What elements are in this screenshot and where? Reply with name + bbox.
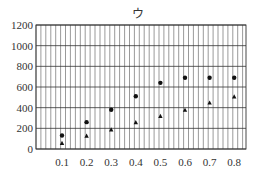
- grid: [36, 25, 246, 149]
- x-tick-label: 0.5: [154, 156, 168, 168]
- x-axis-ticks: 0.10.20.30.40.50.60.70.8: [55, 156, 241, 168]
- circle-marker: [183, 76, 187, 80]
- y-tick-label: 200: [17, 122, 34, 134]
- y-tick-label: 600: [17, 81, 34, 93]
- x-tick-label: 0.6: [178, 156, 192, 168]
- data-points: [60, 76, 237, 145]
- x-tick-label: 0.8: [227, 156, 241, 168]
- circle-marker: [109, 108, 113, 112]
- circle-marker: [60, 133, 64, 137]
- circle-marker: [84, 120, 88, 124]
- circle-marker: [158, 81, 162, 85]
- scatter-chart: ウ 020040060080010001200 0.10.20.30.40.50…: [0, 0, 254, 177]
- x-tick-label: 0.7: [203, 156, 217, 168]
- x-tick-label: 0.1: [55, 156, 69, 168]
- circle-marker: [207, 76, 211, 80]
- x-tick-label: 0.2: [80, 156, 94, 168]
- y-tick-label: 0: [28, 143, 34, 155]
- chart-title: ウ: [132, 7, 144, 21]
- y-tick-label: 1000: [11, 40, 34, 52]
- circle-marker: [134, 94, 138, 98]
- y-tick-label: 1200: [11, 19, 34, 31]
- circle-marker: [232, 76, 236, 80]
- y-tick-label: 800: [17, 60, 34, 72]
- y-tick-label: 400: [17, 102, 34, 114]
- y-axis-ticks: 020040060080010001200: [11, 19, 34, 155]
- x-tick-label: 0.4: [129, 156, 143, 168]
- x-tick-label: 0.3: [104, 156, 118, 168]
